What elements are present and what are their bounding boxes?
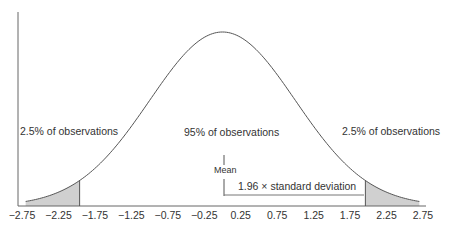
bell-curve — [26, 32, 420, 201]
tick-label: 2.25 — [376, 209, 396, 221]
right-tail-label: 2.5% of observations — [342, 125, 440, 137]
normal-distribution-chart — [0, 0, 450, 231]
tick-label: −2.75 — [9, 209, 36, 221]
tick-label: 0.25 — [231, 209, 251, 221]
center-label: 95% of observations — [184, 126, 279, 138]
left-tail-label: 2.5% of observations — [20, 125, 118, 137]
mean-label: Mean — [214, 165, 237, 175]
right-tail-shaded-area — [365, 181, 419, 206]
tick-label: 2.75 — [413, 209, 433, 221]
tick-label: −2.25 — [45, 209, 72, 221]
tick-label: −0.75 — [155, 209, 182, 221]
tick-label: −1.75 — [82, 209, 109, 221]
tick-label: −1.25 — [118, 209, 145, 221]
tick-label: 0.75 — [267, 209, 287, 221]
sd-bracket-label: 1.96 × standard deviation — [238, 180, 356, 192]
tick-label: 1.25 — [303, 209, 323, 221]
tick-label: 1.75 — [340, 209, 360, 221]
tick-label: −0.25 — [191, 209, 218, 221]
left-tail-shaded-area — [26, 181, 80, 206]
